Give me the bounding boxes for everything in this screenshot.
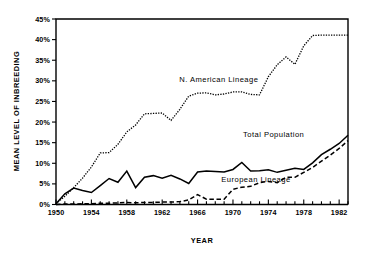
plot-frame — [56, 19, 348, 205]
x-axis-ticks — [56, 200, 339, 205]
x-tick-label: 1958 — [118, 208, 135, 217]
y-tick-label: 30% — [35, 76, 50, 85]
x-tick-label: 1962 — [154, 208, 171, 217]
y-axis-title: MEAN LEVEL OF INBREEDING — [12, 51, 21, 171]
series-line-dotted — [56, 35, 348, 204]
x-tick-label: 1970 — [225, 208, 242, 217]
series-line-dashed — [56, 141, 348, 205]
x-axis-title: YEAR — [191, 236, 214, 245]
series-line-solid — [56, 135, 348, 203]
inbreeding-line-chart: MEAN LEVEL OF INBREEDING YEAR 0%5%10%15%… — [0, 0, 368, 256]
chart-figure: MEAN LEVEL OF INBREEDING YEAR 0%5%10%15%… — [0, 0, 368, 256]
x-tick-label: 1974 — [260, 208, 277, 217]
y-tick-label: 40% — [35, 35, 50, 44]
y-tick-label: 45% — [35, 15, 50, 24]
x-tick-label: 1982 — [331, 208, 348, 217]
y-tick-label: 5% — [39, 179, 50, 188]
data-series-group — [56, 35, 348, 204]
series-label: N. American Lineage — [179, 75, 258, 84]
x-axis-tick-labels: 195019541958196219661970197419781982 — [48, 208, 348, 217]
x-tick-label: 1950 — [48, 208, 65, 217]
y-tick-label: 35% — [35, 56, 50, 65]
series-label: European Lineage — [221, 175, 290, 184]
x-tick-label: 1966 — [189, 208, 206, 217]
x-tick-label: 1978 — [295, 208, 312, 217]
y-axis-tick-labels: 0%5%10%15%20%25%30%35%40%45% — [35, 15, 50, 210]
y-tick-label: 25% — [35, 97, 50, 106]
series-label: Total Population — [243, 130, 304, 139]
y-tick-label: 10% — [35, 159, 50, 168]
y-tick-label: 20% — [35, 118, 50, 127]
y-tick-label: 15% — [35, 138, 50, 147]
x-tick-label: 1954 — [83, 208, 100, 217]
